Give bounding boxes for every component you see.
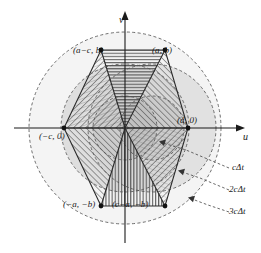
dot-d-0 [186,126,191,131]
u-axis-label: u [243,131,248,142]
vertex-label-bottom-left: (−a, −b) [63,199,95,209]
vertex-label-top-right: (a, b) [152,45,172,55]
dot-minus-c-0 [62,126,67,131]
figure-container: v u (a−c, b) (a, b) (−c, 0) (d, 0) (−a, … [0,0,261,253]
leader-3ct [192,199,229,212]
dot-minus-a-minus-b [99,204,104,209]
figure-svg [0,0,261,253]
v-axis-label: v [119,14,124,25]
callout-3ct: 3cΔt [229,206,246,216]
vertex-label-mid-right: (d, 0) [177,115,197,125]
vertex-label-mid-left: (−c, 0) [39,131,65,141]
vertex-label-top-left: (a−c, b) [73,45,103,55]
dot-ca-minus-b [163,204,168,209]
vertex-label-bottom-right: (c−a, −b) [112,199,149,209]
callout-ct: cΔt [232,162,244,172]
callout-2ct: 2cΔt [229,184,246,194]
